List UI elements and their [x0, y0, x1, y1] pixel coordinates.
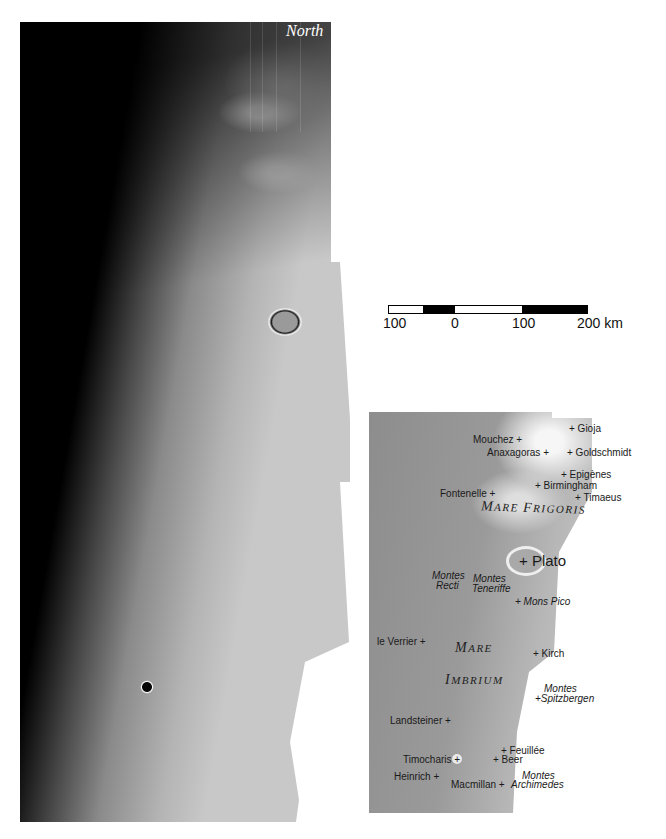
label-montes-recti-line2: Recti	[436, 580, 459, 591]
label-timocharis: Timocharis +	[403, 754, 460, 765]
scan-line	[262, 22, 263, 132]
scale-segment	[389, 306, 423, 313]
label-montes-spitzbergen-line2: +Spitzbergen	[535, 693, 594, 704]
label-anaxagoras: Anaxagoras +	[487, 447, 549, 458]
label-mare-imbrium-line2: IMBRIUM	[445, 672, 504, 688]
label-epigenes: + Epigènes	[561, 469, 611, 480]
label-macmillan: Macmillan +	[451, 779, 505, 790]
scale-segment	[522, 306, 587, 313]
label-beer: + Beer	[493, 754, 523, 765]
scan-line	[250, 22, 251, 132]
lunar-mosaic-photo	[20, 22, 350, 822]
label-kirch: + Kirch	[533, 648, 564, 659]
scale-bar	[388, 305, 588, 314]
label-gioja: + Gioja	[569, 423, 601, 434]
label-fontenelle: Fontenelle +	[440, 488, 495, 499]
label-goldschmidt: + Goldschmidt	[567, 447, 631, 458]
label-plato: + Plato	[519, 553, 566, 569]
label-montes-teneriffe-line2: Teneriffe	[472, 583, 511, 594]
label-montes-archimedes-line2: Archimedes	[511, 779, 564, 790]
label-mons-pico: + Mons Pico	[515, 596, 570, 607]
label-landsteiner: Landsteiner +	[390, 715, 451, 726]
label-mare-imbrium-line1: MARE	[455, 640, 493, 656]
scale-segment	[423, 306, 456, 313]
label-mouchez: Mouchez +	[473, 434, 522, 445]
scale-tick-label: 0	[451, 315, 459, 331]
label-heinrich: Heinrich +	[394, 771, 439, 782]
north-label: North	[286, 22, 323, 40]
scan-line	[276, 22, 277, 132]
label-le-verrier: le Verrier +	[377, 636, 426, 647]
label-birmingham: + Birmingham	[535, 480, 597, 491]
scale-tick-label: 100	[512, 315, 535, 331]
scale-segment	[455, 306, 521, 313]
scale-tick-label: 200 km	[577, 315, 623, 331]
scale-tick-label: 100	[383, 315, 406, 331]
